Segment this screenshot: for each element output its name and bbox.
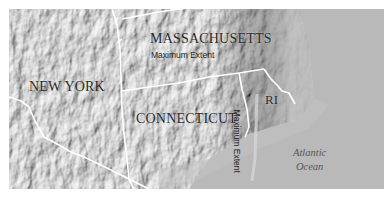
label-connecticut: CONNECTICUT xyxy=(136,112,237,126)
ocean-line-2: Ocean xyxy=(293,160,326,174)
label-rhode-island: RI xyxy=(265,93,278,106)
label-ma-maximum-extent: Maximum Extent xyxy=(151,51,214,60)
ocean-line-1: Atlantic xyxy=(293,146,326,160)
label-ct-maximum-extent: Maximum Extent xyxy=(232,110,241,173)
relief-map: NEW YORK MASSACHUSETTS Maximum Extent CO… xyxy=(9,9,384,189)
label-atlantic-ocean: Atlantic Ocean xyxy=(293,146,326,173)
label-new-york: NEW YORK xyxy=(29,80,105,94)
label-massachusetts: MASSACHUSETTS xyxy=(150,32,272,46)
